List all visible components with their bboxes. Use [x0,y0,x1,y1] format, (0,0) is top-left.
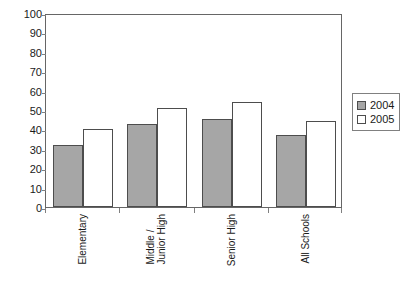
y-axis-tick-labels: 1009080706050403020100 [12,14,42,208]
y-tick-label: 40 [14,125,42,135]
x-category-label-line: Senior High [226,214,237,266]
y-tick-label: 70 [14,67,42,77]
y-tick-mark [42,190,46,191]
x-category-label-line: Middle / [145,214,156,265]
x-tick-mark [268,208,269,213]
bar-chart: 1009080706050403020100 ElementaryMiddle … [0,0,415,299]
x-category-label-line: All Schools [300,214,311,263]
bar-2005-senior-high [232,102,262,207]
y-tick-label: 80 [14,48,42,58]
bar-group [53,15,113,207]
bar-2004-all-schools [276,135,306,207]
y-tick-mark [42,34,46,35]
x-category-label-line: Elementary [77,214,88,265]
bar-2004-middle-junior-high [127,124,157,207]
x-category-label: Senior High [226,214,237,266]
y-tick-mark [42,93,46,94]
x-tick-mark [119,208,120,213]
legend-swatch-icon [357,115,366,124]
x-axis-tick-marks [45,208,342,213]
bar-2004-senior-high [202,119,232,207]
x-tick-mark [341,208,342,213]
x-category-label: Elementary [77,214,88,265]
y-tick-label: 60 [14,87,42,97]
y-tick-mark [42,112,46,113]
y-tick-mark [42,54,46,55]
x-tick-mark [194,208,195,213]
y-tick-label: 10 [14,184,42,194]
plot-area [45,14,342,208]
bar-group [127,15,187,207]
y-tick-mark [42,73,46,74]
legend-item-2004[interactable]: 2004 [357,98,394,112]
legend-item-2005[interactable]: 2005 [357,112,394,126]
bar-2004-elementary [53,145,83,207]
x-axis-category-labels: ElementaryMiddle /Junior HighSenior High… [45,214,342,299]
plot-inner [46,15,341,207]
legend-swatch-icon [357,101,366,110]
y-tick-mark [42,151,46,152]
y-tick-mark [42,131,46,132]
y-tick-label: 30 [14,145,42,155]
y-tick-label: 100 [14,9,42,19]
bar-2005-middle-junior-high [157,108,187,207]
y-tick-label: 50 [14,106,42,116]
y-tick-label: 90 [14,28,42,38]
bar-2005-all-schools [306,121,336,207]
y-tick-mark [42,170,46,171]
bar-group [276,15,336,207]
bar-2005-elementary [83,129,113,207]
y-tick-label: 20 [14,164,42,174]
y-tick-mark [42,15,46,16]
bar-group [202,15,262,207]
x-tick-mark [45,208,46,213]
legend-label: 2005 [370,114,394,125]
y-tick-label: 0 [14,203,42,213]
x-category-label: Middle /Junior High [145,214,167,265]
legend-label: 2004 [370,100,394,111]
x-category-label-line: Junior High [156,214,167,265]
chart-legend: 20042005 [352,93,400,131]
x-category-label: All Schools [300,214,311,263]
